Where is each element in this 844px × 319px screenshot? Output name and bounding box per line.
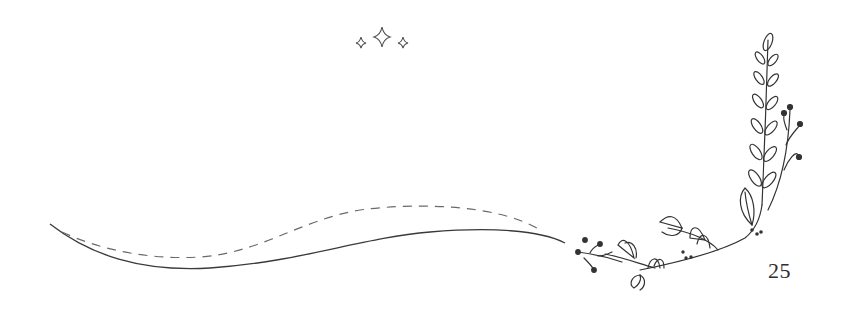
leafy-sprig-horizontal-icon: [605, 217, 718, 290]
page-number: 25: [768, 260, 791, 282]
large-sparkle-icon: [374, 27, 390, 47]
berry-sprig-horizontal-icon: [576, 238, 622, 273]
dashed-wave-line: [62, 206, 540, 257]
journal-page: 25: [0, 0, 844, 319]
sparkles-icon: [356, 27, 408, 48]
botanical-corner: [576, 32, 803, 290]
page-decoration: [0, 0, 844, 319]
small-sparkle-left-icon: [356, 37, 366, 48]
small-sparkle-right-icon: [398, 37, 408, 48]
solid-wave-line: [50, 224, 565, 269]
dot-cluster-right-icon: [750, 228, 763, 236]
swash-lines: [50, 206, 565, 269]
dot-cluster-middle-icon: [681, 250, 692, 259]
